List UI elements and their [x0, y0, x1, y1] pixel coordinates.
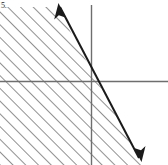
- graph-canvas: [0, 0, 168, 165]
- hatch-fill: [0, 0, 168, 165]
- graph-figure: 5.: [0, 0, 168, 165]
- hatched-region: [0, 0, 168, 165]
- figure-number-label: 5.: [1, 1, 6, 10]
